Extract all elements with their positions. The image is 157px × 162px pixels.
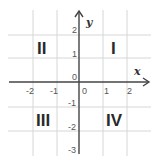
- x-axis-label: x: [133, 65, 141, 78]
- coordinate-plane: y x -2 -1 0 1 2 2 1 0 -1 -2 -3 I II III …: [0, 0, 157, 162]
- x-tick-label: -2: [26, 86, 34, 96]
- y-tick-label: 1: [72, 49, 77, 59]
- x-tick-label: 0: [82, 86, 87, 96]
- y-tick-label: 2: [72, 25, 77, 35]
- y-axis-label: y: [85, 16, 94, 29]
- y-tick-label: -1: [68, 98, 76, 108]
- y-tick-label: -2: [68, 122, 76, 132]
- x-tick-label: -1: [50, 86, 58, 96]
- quadrant-2-label: II: [37, 39, 46, 58]
- x-tick-label: 2: [127, 86, 132, 96]
- y-tick-label: -3: [68, 145, 76, 155]
- quadrant-4-label: IV: [106, 111, 123, 130]
- quadrant-1-label: I: [111, 39, 116, 58]
- y-tick-label: 0: [72, 72, 77, 82]
- quadrant-3-label: III: [36, 111, 50, 130]
- x-tick-label: 1: [104, 86, 109, 96]
